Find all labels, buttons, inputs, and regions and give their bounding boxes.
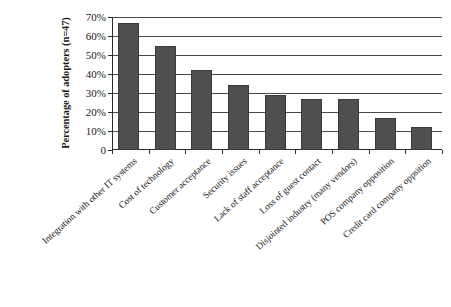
x-category-label: POS company opposition [318,156,395,227]
x-tick-mark [149,150,150,154]
x-tick-mark [112,150,113,154]
bar-slot [222,17,259,150]
y-tick-label: 40% [66,69,106,80]
x-category-label: Lack of staff acceptance [212,156,286,224]
bar[interactable] [228,85,249,150]
x-category-label: Customer acceptance [147,156,212,216]
bars-group [112,17,442,150]
x-category-label: Security issues [201,156,249,200]
y-tick-label: 50% [66,50,106,61]
bar-slot [149,17,186,150]
bar[interactable] [191,70,212,150]
bar[interactable] [375,118,396,150]
bar-slot [185,17,222,150]
x-category-label: Integration with other IT systems [41,156,139,246]
bar-slot [112,17,149,150]
y-tick-label: 0 [66,145,106,156]
x-tick-mark [442,150,443,154]
x-tick-mark [369,150,370,154]
x-category-label: Disjointed industry (many vendors) [254,156,359,252]
x-category-label: Cost of technology [116,156,175,211]
plot-area [112,17,442,150]
x-tick-mark [332,150,333,154]
bar-slot [405,17,442,150]
x-tick-mark [185,150,186,154]
x-category-label: Loss of guest contact [257,156,322,216]
bar-slot [332,17,369,150]
y-tick-label: 60% [66,31,106,42]
bar[interactable] [118,23,139,150]
bar[interactable] [411,127,432,150]
bar-slot [259,17,296,150]
y-tick-label: 20% [66,107,106,118]
x-tick-mark [405,150,406,154]
x-tick-mark [295,150,296,154]
bar[interactable] [265,95,286,150]
y-tick-label: 10% [66,126,106,137]
bar-slot [295,17,332,150]
bar[interactable] [155,46,176,151]
y-tick-label: 70% [66,12,106,23]
bar[interactable] [338,99,359,150]
bar-slot [369,17,406,150]
x-tick-mark [222,150,223,154]
x-category-label: Credit card company oppsition [340,156,432,240]
bar[interactable] [301,99,322,150]
y-tick-label: 30% [66,88,106,99]
bar-chart-figure: Percentage of adopters (n=47) 010%20%30%… [0,0,451,307]
x-tick-mark [259,150,260,154]
